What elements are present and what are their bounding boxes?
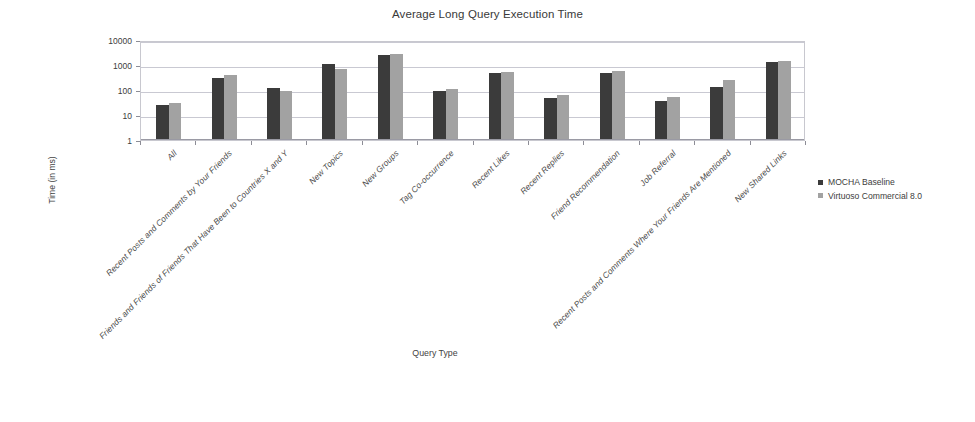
x-axis-category-label: Job Referral — [637, 148, 677, 188]
y-axis-title: Time (in ms) — [47, 120, 57, 240]
x-axis-category-label: Friends and Friends of Friends That Have… — [97, 148, 290, 341]
bar-group — [156, 42, 181, 140]
y-axis-tick-mark — [136, 116, 140, 117]
plot-area — [140, 41, 805, 141]
x-axis-baseline — [141, 139, 804, 140]
x-axis-tick-mark — [528, 141, 529, 145]
bar-group — [544, 42, 569, 140]
bar[interactable] — [501, 72, 514, 140]
x-axis-tick-mark — [251, 141, 252, 145]
bar-group — [378, 42, 403, 140]
legend-label: Virtuoso Commercial 8.0 — [828, 192, 922, 201]
x-axis-tick-mark — [195, 141, 196, 145]
x-axis-tick-mark — [694, 141, 695, 145]
bar[interactable] — [544, 98, 557, 140]
bar-group — [489, 42, 514, 140]
gridline — [141, 117, 804, 118]
bar[interactable] — [335, 69, 348, 140]
bar[interactable] — [723, 80, 736, 140]
x-axis-category-label: New Shared Links — [732, 148, 788, 204]
y-axis-tick-mark — [136, 91, 140, 92]
bar[interactable] — [267, 88, 280, 140]
bar-group — [212, 42, 237, 140]
y-axis-tick-mark — [136, 66, 140, 67]
gridline — [141, 42, 804, 43]
chart-title: Average Long Query Execution Time — [0, 8, 975, 20]
x-axis-tick-mark — [583, 141, 584, 145]
bar[interactable] — [710, 87, 723, 140]
bar-group — [267, 42, 292, 140]
x-axis-category-label: New Groups — [360, 148, 401, 189]
bar-group — [322, 42, 347, 140]
y-axis-tick-label: 100 — [72, 87, 132, 96]
legend-item[interactable]: Virtuoso Commercial 8.0 — [818, 192, 968, 201]
gridline — [141, 92, 804, 93]
bar-group — [655, 42, 680, 140]
bar[interactable] — [612, 71, 625, 140]
chart-legend: MOCHA BaselineVirtuoso Commercial 8.0 — [818, 178, 968, 205]
bar[interactable] — [280, 91, 293, 140]
gridline — [141, 67, 804, 68]
bar[interactable] — [224, 75, 237, 140]
bar-group — [710, 42, 735, 140]
bar[interactable] — [667, 97, 680, 141]
bar-group — [600, 42, 625, 140]
y-axis-tick-label: 1000 — [72, 62, 132, 71]
x-axis-tick-mark — [362, 141, 363, 145]
x-axis-category-label: All — [165, 148, 179, 162]
bar[interactable] — [156, 105, 169, 140]
x-axis-tick-mark — [639, 141, 640, 145]
x-axis-category-label: New Topics — [307, 148, 345, 186]
legend-swatch-icon — [818, 180, 823, 185]
bar[interactable] — [212, 78, 225, 140]
x-axis-tick-mark — [805, 141, 806, 145]
bar[interactable] — [433, 91, 446, 140]
x-axis-category-label: Tag Co-occurrence — [397, 148, 455, 206]
x-axis-title: Query Type — [325, 348, 545, 358]
x-axis-category-label: Recent Replies — [518, 148, 566, 196]
x-axis-tick-mark — [417, 141, 418, 145]
bar[interactable] — [557, 95, 570, 140]
bar[interactable] — [390, 54, 403, 140]
bar[interactable] — [489, 73, 502, 140]
bar-group — [766, 42, 791, 140]
x-axis-tick-mark — [306, 141, 307, 145]
legend-swatch-icon — [818, 193, 823, 198]
legend-label: MOCHA Baseline — [828, 178, 895, 187]
y-axis-tick-label: 1 — [72, 137, 132, 146]
y-axis-tick-label: 10000 — [72, 37, 132, 46]
chart-container: Average Long Query Execution Time 110100… — [0, 0, 975, 422]
bar[interactable] — [766, 62, 779, 140]
x-axis-category-label: Recent Likes — [469, 148, 511, 190]
legend-item[interactable]: MOCHA Baseline — [818, 178, 968, 187]
y-axis-tick-label: 10 — [72, 112, 132, 121]
x-axis-category-label: Recent Posts and Comments by Your Friend… — [104, 148, 234, 278]
bar[interactable] — [169, 103, 182, 140]
x-axis-tick-mark — [473, 141, 474, 145]
x-axis-tick-mark — [750, 141, 751, 145]
bar[interactable] — [322, 64, 335, 140]
bar[interactable] — [600, 73, 613, 140]
bar[interactable] — [378, 55, 391, 140]
bar[interactable] — [655, 101, 668, 140]
x-axis-tick-mark — [140, 141, 141, 145]
y-axis-tick-mark — [136, 41, 140, 42]
bar[interactable] — [446, 89, 459, 140]
bar[interactable] — [778, 61, 791, 140]
bar-group — [433, 42, 458, 140]
